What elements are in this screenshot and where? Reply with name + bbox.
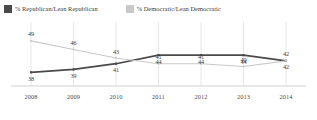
x-tick-2009: 2009	[67, 93, 80, 100]
x-tick-2010: 2010	[110, 93, 123, 100]
x-tick-2011: 2011	[152, 93, 165, 100]
value-label: 42	[283, 50, 289, 57]
legend-label-republican: % Republican/Lean Republican	[15, 5, 98, 13]
data-point-marker[interactable]	[30, 71, 32, 73]
value-label: 43	[113, 48, 119, 55]
value-label: 41	[198, 53, 204, 60]
value-label: 39	[70, 72, 76, 79]
chart-container: % Republican/Lean Republican % Democrati…	[0, 0, 317, 120]
value-label: 42	[283, 63, 289, 70]
data-point-marker[interactable]	[115, 63, 117, 65]
value-label: 41	[155, 53, 161, 60]
x-tick-2013: 2013	[237, 93, 250, 100]
legend-swatch-democratic	[126, 5, 134, 13]
data-point-marker[interactable]	[115, 57, 117, 59]
data-point-marker[interactable]	[285, 60, 287, 62]
data-point-marker[interactable]	[30, 40, 32, 42]
x-tick-2008: 2008	[25, 93, 38, 100]
data-point-marker[interactable]	[72, 68, 74, 70]
value-label: 40	[240, 56, 246, 63]
x-tick-2014: 2014	[280, 93, 294, 100]
legend-swatch-republican	[4, 5, 12, 13]
data-point-marker[interactable]	[243, 66, 245, 68]
x-tick-2012: 2012	[195, 93, 208, 100]
line-chart-svg: 3839414444444249464341414042 20082009201…	[0, 16, 317, 120]
legend-label-democratic: % Democratic/Lean Democratic	[137, 5, 221, 13]
x-axis-tick-labels: 2008200920102011201220132014	[25, 93, 294, 100]
data-point-marker[interactable]	[73, 49, 75, 51]
value-label: 38	[28, 75, 34, 82]
legend-item-democratic[interactable]: % Democratic/Lean Democratic	[126, 1, 221, 17]
value-label: 41	[113, 66, 119, 73]
legend-item-republican[interactable]: % Republican/Lean Republican	[4, 1, 98, 17]
value-label: 46	[70, 39, 76, 46]
plot-area: 3839414444444249464341414042 20082009201…	[0, 16, 317, 120]
chart-legend: % Republican/Lean Republican % Democrati…	[0, 1, 317, 17]
value-label: 49	[28, 30, 34, 37]
